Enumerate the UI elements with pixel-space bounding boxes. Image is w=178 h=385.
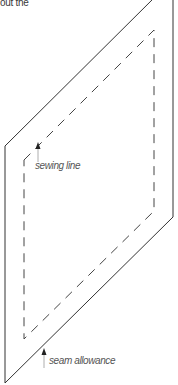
- sewing-line-label: sewing line: [35, 160, 80, 171]
- sewing-line-arrow-icon: [36, 142, 41, 162]
- outer-cut-edge: [5, 0, 173, 383]
- seam-allowance-arrow-icon: [42, 348, 47, 368]
- seam-allowance-label: seam allowance: [49, 355, 115, 366]
- sewing-line-dashed: [24, 30, 154, 339]
- fabric-parallelogram-diagram: [0, 0, 178, 385]
